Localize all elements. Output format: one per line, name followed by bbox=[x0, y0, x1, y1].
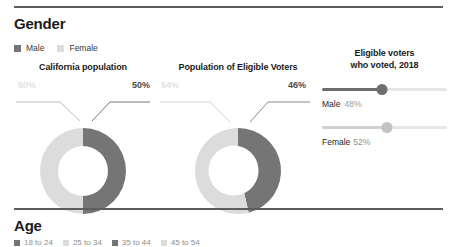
slider-fill-male bbox=[322, 88, 382, 91]
age-section-title: Age bbox=[14, 217, 42, 234]
legend-swatch-female-icon bbox=[57, 45, 64, 52]
chart-eligible-voters-who-voted: Eligible voters who voted, 2018 Male48% … bbox=[322, 48, 447, 147]
legend-swatch-male-icon bbox=[14, 45, 21, 52]
age-legend-item: 45 to 54 bbox=[161, 238, 200, 247]
donut-eligible-svg bbox=[158, 80, 318, 208]
age-legend: 18 to 24 25 to 34 35 to 44 45 to 54 bbox=[14, 238, 200, 247]
donut-california-svg bbox=[8, 80, 158, 208]
donut-label-female-california: 50% bbox=[18, 80, 36, 90]
age-legend-swatch-icon bbox=[14, 240, 20, 246]
age-legend-label: 25 to 34 bbox=[73, 238, 102, 247]
slider-label-male: Male bbox=[322, 99, 340, 109]
donut-slice-male bbox=[83, 128, 126, 214]
donut-slice-female bbox=[40, 128, 83, 214]
donut-label-male-california: 50% bbox=[132, 80, 150, 90]
age-legend-label: 35 to 44 bbox=[122, 238, 151, 247]
leader-line-female bbox=[160, 102, 230, 122]
legend-label-male: Male bbox=[26, 43, 44, 53]
donut-label-male-eligible: 46% bbox=[288, 80, 306, 90]
age-section-divider bbox=[14, 208, 443, 210]
age-legend-item: 18 to 24 bbox=[14, 238, 53, 247]
chart-title-voted-line2: who voted, 2018 bbox=[322, 60, 447, 72]
slider-group-male: Male48% bbox=[322, 84, 447, 109]
age-legend-item: 25 to 34 bbox=[63, 238, 102, 247]
chart-title-voted-line1: Eligible voters bbox=[322, 48, 447, 60]
slider-handle-female[interactable] bbox=[382, 122, 393, 133]
leader-line-male bbox=[92, 102, 150, 121]
leader-line-male bbox=[250, 102, 310, 122]
age-legend-label: 18 to 24 bbox=[24, 238, 53, 247]
legend-item-male: Male bbox=[14, 43, 44, 53]
age-legend-swatch-icon bbox=[161, 240, 167, 246]
donut-california-wrap: 50% 50% bbox=[8, 80, 158, 196]
donut-label-female-eligible: 54% bbox=[161, 80, 179, 90]
slider-group-female: Female52% bbox=[322, 122, 447, 147]
leader-line-female bbox=[16, 102, 80, 121]
slider-handle-male[interactable] bbox=[377, 84, 388, 95]
chart-title-california: California population bbox=[8, 62, 158, 72]
legend-label-female: Female bbox=[69, 43, 97, 53]
chart-california-population: California population 50% 50% bbox=[8, 62, 158, 196]
gender-section-divider bbox=[14, 6, 443, 8]
slider-label-female: Female bbox=[322, 137, 350, 147]
chart-title-eligible: Population of Eligible Voters bbox=[158, 62, 318, 72]
legend-item-female: Female bbox=[57, 43, 97, 53]
chart-eligible-voters-population: Population of Eligible Voters 54% 46% bbox=[158, 62, 318, 196]
slider-caption-female: Female52% bbox=[322, 137, 447, 147]
slider-value-female: 52% bbox=[353, 137, 370, 147]
gender-legend: Male Female bbox=[14, 43, 98, 53]
age-legend-item: 35 to 44 bbox=[112, 238, 151, 247]
age-legend-label: 45 to 54 bbox=[171, 238, 200, 247]
slider-fill-female bbox=[322, 126, 387, 129]
age-legend-swatch-icon bbox=[63, 240, 69, 246]
chart-title-voted: Eligible voters who voted, 2018 bbox=[322, 48, 447, 71]
slider-caption-male: Male48% bbox=[322, 99, 447, 109]
gender-section-title: Gender bbox=[14, 15, 65, 32]
slider-male[interactable] bbox=[322, 84, 447, 96]
slider-female[interactable] bbox=[322, 122, 447, 134]
donut-eligible-wrap: 54% 46% bbox=[158, 80, 318, 196]
age-legend-swatch-icon bbox=[112, 240, 118, 246]
slider-value-male: 48% bbox=[344, 99, 361, 109]
